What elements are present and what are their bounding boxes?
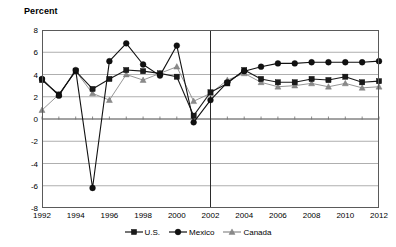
plot-border (42, 30, 379, 208)
legend-item-canada[interactable]: Canada (223, 227, 271, 237)
x-tick-label: 1996 (92, 211, 126, 220)
x-tick-label: 1992 (25, 211, 59, 220)
y-tick-label: -4 (18, 159, 38, 168)
legend-label: Mexico (189, 228, 214, 237)
y-tick-label: 0 (18, 115, 38, 124)
square-marker-icon (125, 227, 143, 237)
x-tick-label: 2008 (295, 211, 329, 220)
circle-marker-icon (169, 227, 187, 237)
chart-container: Percent 86420-2-4-6-8 199219941996199820… (0, 0, 396, 247)
legend-label: Canada (243, 228, 271, 237)
y-tick-label: 6 (18, 48, 38, 57)
x-tick-label: 2006 (261, 211, 295, 220)
x-tick-label: 2002 (194, 211, 228, 220)
y-tick-label: 2 (18, 92, 38, 101)
legend-item-mexico[interactable]: Mexico (169, 227, 214, 237)
legend-item-us[interactable]: U.S. (125, 227, 161, 237)
triangle-marker-icon (223, 227, 241, 237)
legend-label: U.S. (145, 228, 161, 237)
y-tick-label: 8 (18, 26, 38, 35)
y-axis-title: Percent (24, 6, 58, 16)
x-tick-label: 1994 (59, 211, 93, 220)
x-tick-label: 2010 (328, 211, 362, 220)
y-tick-label: -6 (18, 181, 38, 190)
y-tick-label: -2 (18, 137, 38, 146)
plot-area (42, 30, 379, 208)
x-tick-label: 2012 (362, 211, 396, 220)
x-tick-label: 2004 (227, 211, 261, 220)
data-point-marker (131, 229, 136, 234)
x-tick-label: 1998 (126, 211, 160, 220)
x-tick-label: 2000 (160, 211, 194, 220)
chart-legend: U.S.MexicoCanada (0, 227, 396, 237)
y-tick-label: 4 (18, 70, 38, 79)
data-point-marker (175, 229, 181, 235)
